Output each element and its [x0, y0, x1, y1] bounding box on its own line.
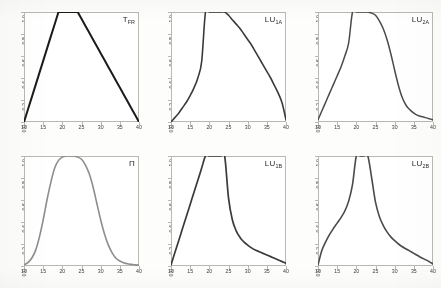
- panel-label-main-lu1b: LU: [265, 159, 276, 168]
- x-tick-label: 10: [21, 124, 27, 130]
- x-tick-label: 20: [59, 268, 65, 274]
- panel-label-lu2b: LU2B: [412, 159, 429, 168]
- curve-pi: [24, 156, 139, 266]
- x-tick-label: 10: [315, 124, 321, 130]
- x-tick-label: 30: [98, 124, 104, 130]
- panel-label-sub-lu2a: 2A: [422, 19, 429, 25]
- x-tick-label: 30: [245, 124, 251, 130]
- x-tick-label: 35: [264, 268, 270, 274]
- x-tick-label: 30: [392, 268, 398, 274]
- x-tick-label: 40: [136, 268, 142, 274]
- x-tick-label: 20: [206, 124, 212, 130]
- y-axis-lu2b: 0.00.20.40.60.81.0: [294, 156, 318, 266]
- membership-curve-path: [24, 12, 139, 122]
- x-tick-label: 35: [117, 124, 123, 130]
- x-tick-label: 40: [283, 268, 289, 274]
- plot-area-lu2b: [318, 156, 433, 266]
- panel-label-main-lu2b: LU: [412, 159, 423, 168]
- x-tick-label: 15: [334, 268, 340, 274]
- panel-label-lu2a: LU2A: [412, 15, 429, 24]
- x-axis-lu2a: 10152025303540: [318, 124, 433, 136]
- x-tick-label: 15: [187, 124, 193, 130]
- panel-pi: 0.00.20.40.60.81.0 10152025303540 Π: [0, 144, 147, 288]
- x-tick-label: 25: [226, 268, 232, 274]
- panel-label-sub-tfr: FR: [128, 19, 135, 25]
- x-tick-label: 35: [264, 124, 270, 130]
- x-tick-label: 10: [168, 124, 174, 130]
- membership-curve-path: [24, 156, 139, 265]
- x-tick-label: 25: [79, 268, 85, 274]
- y-axis-lu1b: 0.00.20.40.60.81.0: [147, 156, 171, 266]
- x-axis-tfr: 10152025303540: [24, 124, 139, 136]
- panel-lu1b: 0.00.20.40.60.81.0 10152025303540 LU1B: [147, 144, 294, 288]
- x-tick-label: 40: [136, 124, 142, 130]
- x-axis-lu1a: 10152025303540: [171, 124, 286, 136]
- plot-area-lu1b: [171, 156, 286, 266]
- panel-label-main-pi: Π: [129, 159, 135, 168]
- x-tick-label: 40: [283, 124, 289, 130]
- x-tick-label: 20: [59, 124, 65, 130]
- panel-lu2b: 0.00.20.40.60.81.0 10152025303540 LU2B: [294, 144, 441, 288]
- x-tick-label: 35: [411, 124, 417, 130]
- x-tick-label: 10: [21, 268, 27, 274]
- plot-area-tfr: [24, 12, 139, 122]
- x-tick-label: 25: [79, 124, 85, 130]
- x-axis-pi: 10152025303540: [24, 268, 139, 280]
- x-tick-label: 15: [187, 268, 193, 274]
- curve-lu1b: [171, 156, 286, 266]
- x-tick-label: 20: [353, 268, 359, 274]
- y-axis-lu1a: 0.00.20.40.60.81.0: [147, 12, 171, 122]
- x-tick-label: 10: [315, 268, 321, 274]
- membership-curve-path: [171, 156, 286, 265]
- membership-curve-path: [318, 156, 433, 265]
- x-tick-label: 25: [373, 124, 379, 130]
- panel-label-main-lu1a: LU: [265, 15, 276, 24]
- x-tick-label: 25: [226, 124, 232, 130]
- x-tick-label: 35: [117, 268, 123, 274]
- x-tick-label: 20: [353, 124, 359, 130]
- panel-lu1a: 0.00.20.40.60.81.0 10152025303540 LU1A: [147, 0, 294, 144]
- x-tick-label: 15: [40, 268, 46, 274]
- x-tick-label: 15: [40, 124, 46, 130]
- x-tick-label: 20: [206, 268, 212, 274]
- panel-tfr: 0.00.20.40.60.81.0 10152025303540 TFR: [0, 0, 147, 144]
- membership-function-figure: 0.00.20.40.60.81.0 10152025303540 TFR 0.…: [0, 0, 441, 288]
- membership-curve-path: [171, 12, 286, 122]
- plot-area-pi: [24, 156, 139, 266]
- curve-lu2a: [318, 12, 433, 122]
- x-tick-label: 40: [430, 268, 436, 274]
- panel-label-sub-lu1a: 1A: [275, 19, 282, 25]
- panel-label-lu1b: LU1B: [265, 159, 282, 168]
- panel-label-lu1a: LU1A: [265, 15, 282, 24]
- panel-label-sub-lu2b: 2B: [422, 163, 429, 169]
- panel-label-sub-lu1b: 1B: [275, 163, 282, 169]
- x-axis-lu2b: 10152025303540: [318, 268, 433, 280]
- plot-area-lu2a: [318, 12, 433, 122]
- plot-area-lu1a: [171, 12, 286, 122]
- membership-curve-path: [318, 12, 433, 120]
- panel-lu2a: 0.00.20.40.60.81.0 10152025303540 LU2A: [294, 0, 441, 144]
- curve-tfr: [24, 12, 139, 122]
- x-tick-label: 15: [334, 124, 340, 130]
- panel-label-main-lu2a: LU: [412, 15, 423, 24]
- curve-lu2b: [318, 156, 433, 266]
- y-axis-tfr: 0.00.20.40.60.81.0: [0, 12, 24, 122]
- x-tick-label: 30: [98, 268, 104, 274]
- panel-label-pi: Π: [129, 159, 135, 168]
- y-axis-pi: 0.00.20.40.60.81.0: [0, 156, 24, 266]
- curve-lu1a: [171, 12, 286, 122]
- x-tick-label: 10: [168, 268, 174, 274]
- panel-label-tfr: TFR: [123, 15, 135, 24]
- x-tick-label: 40: [430, 124, 436, 130]
- x-tick-label: 30: [245, 268, 251, 274]
- x-tick-label: 25: [373, 268, 379, 274]
- x-tick-label: 35: [411, 268, 417, 274]
- x-tick-label: 30: [392, 124, 398, 130]
- y-axis-lu2a: 0.00.20.40.60.81.0: [294, 12, 318, 122]
- x-axis-lu1b: 10152025303540: [171, 268, 286, 280]
